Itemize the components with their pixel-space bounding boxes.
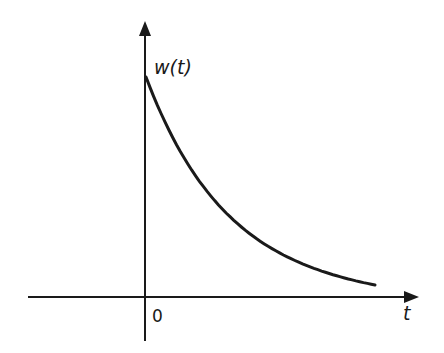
y-axis-label: w(t) (154, 56, 192, 78)
y-axis-arrow-icon (139, 21, 151, 36)
origin-label: 0 (152, 306, 163, 326)
decay-curve (146, 77, 375, 285)
decay-diagram: w(t) 0 t (0, 0, 444, 353)
x-axis-label: t (403, 302, 412, 324)
